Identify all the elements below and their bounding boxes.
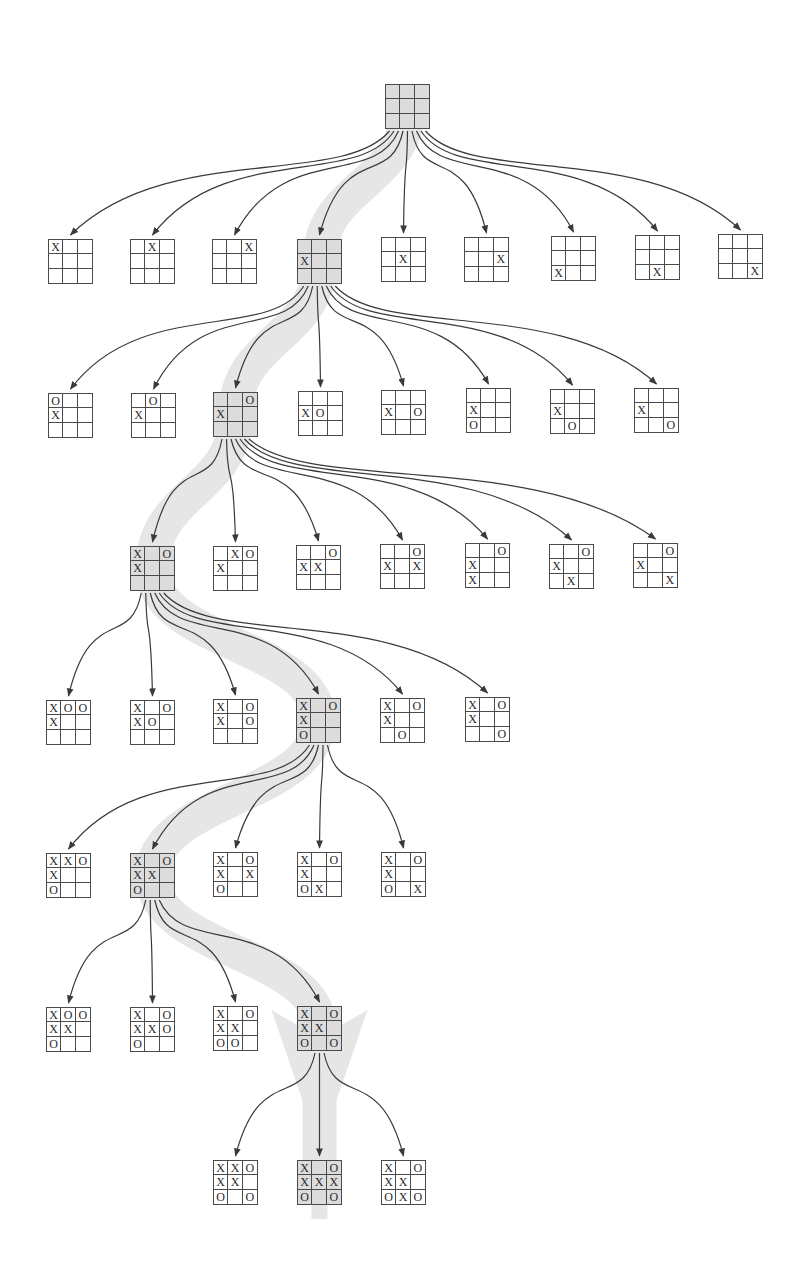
edge-arrow [155,900,236,1002]
board-cell [160,1037,174,1051]
edge-arrow [71,286,304,389]
board-cell [479,267,493,281]
board-cell: X [396,252,410,266]
board-cell [565,404,579,418]
board-cell [132,423,146,437]
edge-arrow [69,593,142,696]
board-cell [160,561,174,575]
board-cell [228,882,242,896]
board-cell [327,882,341,896]
board-cell [131,730,145,744]
board-cell [551,419,565,433]
board-l1-8: X [718,234,763,279]
board-cell [160,269,174,283]
board-cell [214,547,228,561]
board-cell: X [550,559,564,573]
board-cell: X [466,712,480,726]
board-cell [396,267,410,281]
board-l7-1: XOXXXOO [297,1160,342,1205]
board-cell [312,240,326,254]
board-cell: O [243,714,257,728]
board-cell [326,713,340,727]
board-cell [551,390,565,404]
board-cell: X [396,1175,410,1189]
board-cell [748,249,762,263]
board-cell [748,235,762,249]
board-cell [298,269,312,283]
board-l2-0: OX [48,393,93,438]
board-cell [328,392,342,406]
board-cell: O [214,1036,228,1050]
board-cell [733,235,747,249]
board-cell [636,236,650,250]
board-l2-3: XO [298,391,343,436]
board-cell: O [495,727,509,741]
board-cell [243,561,257,575]
edge-arrow [150,900,152,1003]
board-cell [396,1161,410,1175]
board-cell [299,392,313,406]
board-cell [78,254,92,268]
board-cell: O [160,701,174,715]
board-cell: X [145,1022,159,1036]
board-cell [481,418,495,432]
board-cell [311,699,325,713]
board-cell [312,1036,326,1050]
board-cell [581,251,595,265]
board-cell: O [76,1008,90,1022]
board-cell: O [160,547,174,561]
board-cell: O [228,1036,242,1050]
board-cell [381,728,395,742]
board-cell: X [466,698,480,712]
board-cell: O [146,394,160,408]
board-cell: X [382,405,396,419]
edge-arrow [245,439,572,540]
board-cell [145,854,159,868]
board-cell: X [411,882,425,896]
board-l4-3: XOXO [296,698,341,743]
board-cell [395,574,409,588]
board-cell [227,254,241,268]
board-cell [243,1021,257,1035]
board-cell [228,407,242,421]
board-cell [411,238,425,252]
board-cell [76,1022,90,1036]
edge-arrow [159,900,319,1002]
board-l3-0: XOX [130,546,175,591]
board-cell: X [381,559,395,573]
board-cell [145,1008,159,1022]
board-cell: O [298,1190,312,1204]
board-cell: X [214,1161,228,1175]
board-cell: O [411,405,425,419]
board-l6-0: XOOXXO [46,1007,91,1052]
board-cell: O [131,883,145,897]
board-cell: X [494,252,508,266]
board-cell [480,544,494,558]
edge-arrow [236,745,319,848]
board-cell: X [298,1161,312,1175]
board-cell [160,240,174,254]
board-cell [719,235,733,249]
board-cell [327,867,341,881]
board-cell [228,1190,242,1204]
board-cell: X [61,1022,75,1036]
board-cell [480,712,494,726]
board-l4-4: XOXO [380,698,425,743]
edge-arrow [328,745,404,848]
board-cell [636,250,650,264]
board-cell [466,544,480,558]
board-cell: O [160,1022,174,1036]
board-cell: O [298,1036,312,1050]
board-cell [581,266,595,280]
board-cell [386,85,400,99]
edge-arrow [331,286,573,385]
board-cell [635,418,649,432]
board-l1-7: X [635,235,680,280]
board-cell [145,254,159,268]
edge-arrow [412,131,487,233]
board-cell: X [131,868,145,882]
board-cell [411,867,425,881]
board-cell [146,408,160,422]
board-cell: X [214,714,228,728]
board-cell: X [49,240,63,254]
